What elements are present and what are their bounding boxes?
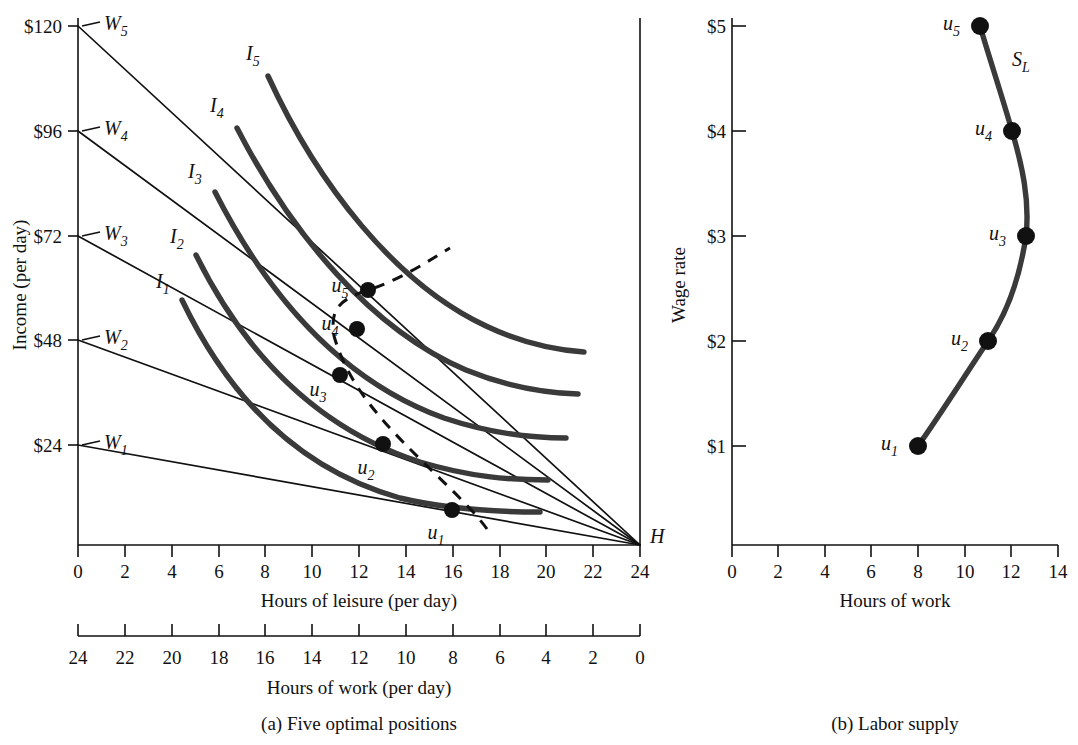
point-u2 [979,332,997,350]
point-label-u2: u2 [358,456,375,483]
supply-curve-label: SL [1012,48,1030,75]
budget-label-w4: W4 [104,117,128,144]
work-tick-label: 16 [256,647,275,668]
point-label-u5: u5 [332,274,349,301]
budget-label-w3: W3 [104,222,128,249]
work-tick-label: 22 [116,647,135,668]
x-tick-label: 12 [1002,561,1021,582]
x-tick-label: 12 [350,561,369,582]
x-tick-label: 18 [491,561,510,582]
point-u1 [444,502,460,518]
point-label-u4: u4 [322,312,339,339]
y-tick-label: $1 [707,436,726,457]
y-tick-label: $48 [34,330,63,351]
indiff-label-i2: I2 [169,225,184,252]
panel-b-x-axis-title: Hours of work [840,590,951,611]
point-label-u3: u3 [989,222,1006,249]
work-tick-label: 12 [350,647,369,668]
panel-b-x-ticks: 0 2 4 6 8 10 12 14 [727,545,1068,582]
panel-a-five-optimal-positions: $24 $48 $72 $96 $120 Income (per day) [0,0,690,745]
point-u5 [971,17,989,35]
y-tick-label: $120 [24,16,62,37]
work-tick-label: 14 [303,647,323,668]
x-tick-label: 2 [120,561,130,582]
x-tick-label: 10 [303,561,322,582]
x-tick-label: 0 [727,561,737,582]
panel-a-work-axis-title: Hours of work (per day) [267,677,452,699]
work-tick-label: 24 [69,647,89,668]
panel-b-labor-supply: $1 $2 $3 $4 $5 Wage rate SL u [690,0,1078,745]
x-tick-label: 14 [397,561,417,582]
point-u4 [1003,122,1021,140]
x-tick-label: 14 [1049,561,1069,582]
x-tick-label: 0 [73,561,83,582]
indifference-curve-i5 [268,76,584,352]
x-tick-label: 6 [866,561,876,582]
panel-a-y-axis-title: Income (per day) [9,220,31,351]
supply-points [909,17,1035,455]
work-tick-label: 10 [397,647,416,668]
x-tick-label: 4 [820,561,830,582]
work-tick-label: 20 [163,647,182,668]
x-tick-label: 8 [913,561,923,582]
point-label-u1: u1 [428,521,445,548]
work-tick-label: 18 [210,647,229,668]
indiff-label-i5: I5 [245,42,260,69]
y-tick-label: $96 [34,121,63,142]
x-tick-label: 4 [167,561,177,582]
panel-b-caption: (b) Labor supply [831,713,959,735]
panel-a-x-ticks: 0 2 4 6 8 10 12 14 16 18 20 22 24 [73,545,650,582]
indifference-curve-i4 [237,128,578,394]
panel-b-y-axis-title: Wage rate [668,247,689,323]
labor-supply-figure: $24 $48 $72 $96 $120 Income (per day) [0,0,1078,745]
x-tick-label: 20 [537,561,556,582]
indiff-label-i3: I3 [187,160,202,187]
work-tick-label: 0 [635,647,645,668]
point-u5 [360,282,376,298]
x-tick-label: 16 [444,561,463,582]
point-u4 [349,321,365,337]
panel-a-caption: (a) Five optimal positions [261,713,457,735]
x-tick-label: 8 [260,561,270,582]
budget-label-w2: W2 [104,326,128,353]
x-tick-label: 2 [773,561,783,582]
work-tick-label: 6 [495,647,505,668]
y-tick-label: $3 [707,226,726,247]
y-tick-label: $72 [34,226,63,247]
x-tick-label: 22 [584,561,603,582]
x-tick-label: 6 [214,561,224,582]
indifference-curve-labels: I1 I2 I3 I4 I5 [155,42,260,297]
point-u1 [909,437,927,455]
indiff-label-i1: I1 [155,270,170,297]
y-tick-label: $5 [707,16,726,37]
y-tick-label: $24 [34,435,63,456]
work-tick-label: 4 [541,647,551,668]
point-u2 [375,436,391,452]
indiff-label-i4: I4 [209,94,224,121]
y-tick-label: $4 [707,121,727,142]
budget-label-w5: W5 [104,12,128,39]
work-tick-label: 8 [448,647,458,668]
y-tick-label: $2 [707,331,726,352]
point-u3 [1017,227,1035,245]
labor-supply-curve [918,26,1027,446]
endowment-label-h: H [649,525,666,547]
point-u3 [332,367,348,383]
x-tick-label: 24 [631,561,651,582]
supply-point-labels: u1 u2 u3 u4 u5 [881,12,1006,459]
point-label-u1: u1 [881,432,898,459]
panel-b-y-ticks: $1 $2 $3 $4 $5 [707,16,746,457]
panel-a-y-ticks: $24 $48 $72 $96 $120 [24,16,78,456]
panel-a-svg: $24 $48 $72 $96 $120 Income (per day) [0,0,690,745]
panel-a-x-axis-title: Hours of leisure (per day) [261,590,457,612]
x-tick-label: 10 [956,561,975,582]
panel-b-svg: $1 $2 $3 $4 $5 Wage rate SL u [690,0,1078,745]
budget-line-labels: W1 W2 W3 W4 W5 [82,12,128,458]
point-label-u4: u4 [975,117,992,144]
work-tick-label: 2 [588,647,598,668]
point-label-u5: u5 [943,12,960,39]
panel-a-work-axis: 24 22 20 18 16 14 12 10 8 6 4 2 0 Hours … [69,624,645,699]
budget-label-w1: W1 [104,431,128,458]
point-label-u2: u2 [951,327,968,354]
